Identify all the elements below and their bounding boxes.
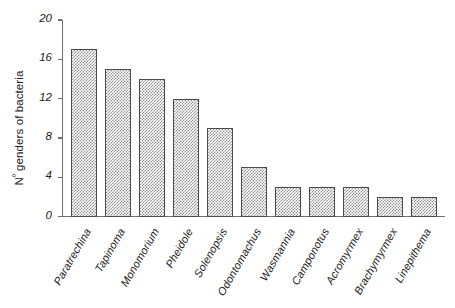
bar — [377, 197, 403, 217]
bar — [173, 99, 199, 217]
y-axis-tick-label: 20 — [39, 12, 52, 24]
y-axis-title-rest: genders of bacteria — [13, 71, 25, 175]
y-axis-tick-label: 0 — [46, 209, 52, 221]
bar — [105, 69, 131, 216]
plot-area — [62, 20, 445, 217]
bar — [343, 187, 369, 216]
y-axis-title-superscript: º — [11, 174, 20, 177]
bar — [139, 79, 165, 217]
bar — [309, 187, 335, 216]
y-axis-title: Nº genders of bacteria — [8, 28, 30, 228]
y-axis-tick-label: 12 — [39, 91, 52, 103]
bar — [275, 187, 301, 216]
y-axis-tick-label: 16 — [39, 51, 52, 63]
bar — [241, 167, 267, 216]
bar-chart-figure: Nº genders of bacteria 048121620 Paratre… — [0, 0, 455, 308]
bar — [207, 128, 233, 216]
bar — [71, 49, 97, 216]
y-axis-title-text: Nº genders of bacteria — [13, 71, 25, 186]
y-axis-title-prefix: N — [13, 177, 25, 185]
bar — [411, 197, 437, 217]
y-axis-tick-label: 4 — [46, 169, 52, 181]
y-axis-tick-label: 8 — [46, 130, 52, 142]
